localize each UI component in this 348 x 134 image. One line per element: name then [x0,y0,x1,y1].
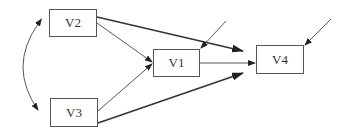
node-label: V1 [169,55,185,71]
node-v3: V3 [50,98,98,127]
covariance-v2-v3 [23,24,38,110]
node-label: V2 [65,15,81,31]
edge-v2-v1 [97,23,152,62]
disturbance-v4 [305,19,331,45]
node-v4: V4 [256,45,304,74]
node-label: V3 [66,105,82,121]
node-v1: V1 [153,49,200,77]
path-diagram: V2 V3 V1 V4 [0,0,348,134]
edge-v3-v1 [98,64,152,111]
node-v2: V2 [49,9,97,37]
node-label: V4 [272,52,288,68]
edge-v2-v4 [97,17,243,51]
edge-v3-v4 [98,73,243,123]
